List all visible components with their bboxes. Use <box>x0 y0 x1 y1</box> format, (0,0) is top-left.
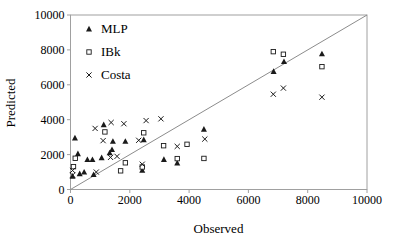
mlp-point <box>122 138 128 144</box>
x-tick-label: 8000 <box>296 193 320 207</box>
x-tick-label: 6000 <box>236 193 260 207</box>
x-tick-label: 0 <box>68 193 74 207</box>
ibk-point <box>271 49 275 53</box>
costa-point <box>108 155 113 160</box>
costa-point <box>93 126 98 131</box>
ibk-point <box>175 156 179 160</box>
ibk-point <box>123 161 127 165</box>
legend-label: IBk <box>98 44 121 60</box>
mlp-point <box>110 138 116 144</box>
legend-entry-ibk: IBk <box>84 40 131 63</box>
costa-point <box>144 118 149 123</box>
mlp-point <box>81 169 87 175</box>
mlp-point <box>201 126 207 132</box>
mlp-point <box>72 135 78 141</box>
y-tick-label: 8000 <box>41 43 65 57</box>
ibk-point <box>202 156 206 160</box>
legend: MLPIBkCosta <box>84 17 131 86</box>
mlp-point <box>75 151 81 157</box>
ibk-point <box>320 64 324 68</box>
costa-point <box>202 136 207 141</box>
plot-area: 0200040006000800010000020004000600080001… <box>0 0 399 243</box>
mlp-point <box>84 156 90 162</box>
y-axis-title: Predicted <box>3 28 19 178</box>
ibk-point <box>73 156 77 160</box>
mlp-point <box>101 122 107 128</box>
costa-point <box>109 120 114 125</box>
x-tick-label: 10000 <box>352 193 382 207</box>
x-cross-icon <box>84 69 98 81</box>
scatter-chart-figure: 0200040006000800010000020004000600080001… <box>0 0 399 243</box>
x-tick-label: 4000 <box>177 193 201 207</box>
mlp-point <box>77 171 83 177</box>
ibk-point <box>142 131 146 135</box>
ibk-point <box>185 142 189 146</box>
legend-label: Costa <box>98 67 131 83</box>
mlp-point <box>109 147 115 153</box>
costa-point <box>101 138 106 143</box>
y-tick-label: 4000 <box>41 113 65 127</box>
mlp-point <box>99 155 105 161</box>
series-costa <box>70 86 325 178</box>
ibk-point <box>103 130 107 134</box>
costa-point <box>281 86 286 91</box>
costa-point <box>121 121 126 126</box>
ibk-point <box>281 52 285 56</box>
mlp-point <box>161 156 167 162</box>
y-tick-label: 10000 <box>35 8 65 22</box>
y-tick-label: 0 <box>59 183 65 197</box>
costa-point <box>114 154 119 159</box>
x-axis-title: Observed <box>70 221 367 237</box>
mlp-point <box>319 51 325 57</box>
costa-point <box>136 138 141 143</box>
mlp-point <box>141 137 147 143</box>
y-tick-label: 6000 <box>41 78 65 92</box>
open-square-icon <box>84 46 98 58</box>
mlp-point <box>89 156 95 162</box>
x-tick-label: 2000 <box>118 193 142 207</box>
legend-entry-mlp: MLP <box>84 17 131 40</box>
mlp-point <box>281 58 287 64</box>
ibk-point <box>118 169 122 173</box>
costa-point <box>158 116 163 121</box>
legend-label: MLP <box>98 21 128 37</box>
ibk-point <box>161 144 165 148</box>
filled-triangle-icon <box>84 23 98 35</box>
costa-point <box>271 92 276 97</box>
y-tick-label: 2000 <box>41 148 65 162</box>
costa-point <box>319 95 324 100</box>
costa-point <box>175 144 180 149</box>
legend-entry-costa: Costa <box>84 63 131 86</box>
